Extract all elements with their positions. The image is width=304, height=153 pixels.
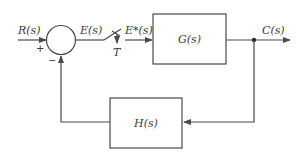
feedback-block-label: H(s) (133, 117, 158, 130)
minus-sign: − (48, 55, 56, 66)
input-label: R(s) (17, 24, 41, 37)
sampled-error-label: E*(s) (124, 24, 153, 37)
forward-block-label: G(s) (178, 33, 201, 46)
feedback-return-line (61, 56, 110, 122)
error-label: E(s) (79, 24, 102, 37)
sampler-switch (104, 29, 121, 43)
block-diagram: R(s) + − E(s) T E*(s) G(s) C(s) H(s) (0, 0, 304, 153)
output-label: C(s) (262, 24, 285, 37)
plus-sign: + (36, 43, 44, 54)
sampling-period-label: T (113, 46, 122, 59)
summing-junction (47, 26, 76, 55)
